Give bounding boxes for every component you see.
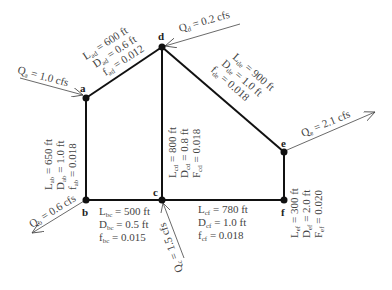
svg-text:Fef = 0.020: Fef = 0.020 [312,189,326,238]
pipe-label-de: Lde = 900 ft Dde = 1.0 ft fde = 0.018 [208,45,277,112]
svg-text:Lbc = 500 ft: Lbc = 500 ft [99,205,150,219]
svg-text:fbc = 0.015: fbc = 0.015 [99,231,146,245]
pipe-label-bc: Lbc = 500 ft Dbc = 0.5 ft fbc = 0.015 [99,205,150,245]
node-label-d: d [158,30,164,42]
svg-text:Dbc = 0.5 ft: Dbc = 0.5 ft [99,218,149,232]
pipe-label-ab: Lab = 650 ft Dab = 1.0 ft fab = 0.018 [42,139,80,190]
node-f [281,197,288,204]
svg-text:Fcd = 0.018: Fcd = 0.018 [190,128,204,178]
node-label-c: c [153,186,158,198]
pipe-label-cf: Lcf = 780 ft Dcf = 1.0 ft fcf = 0.018 [198,203,248,243]
node-e [281,149,288,156]
flow-label-b: Qb = 0.6 cfs [27,192,79,232]
flow-label-d: Qd = 0.2 cfs [177,8,231,36]
node-b [83,197,90,204]
node-a [83,95,90,102]
flow-label-c: Qc = 1.5 cfs [156,221,187,275]
pipe-label-ef: Lef = 300 ft Def = 2.0 ft Fef = 0.020 [288,188,326,238]
flow-label-e: Qe = 2.1 cfs [299,107,352,140]
node-label-f: f [281,206,285,218]
node-label-b: b [82,206,88,218]
svg-text:fcf = 0.018: fcf = 0.018 [198,229,244,243]
pipe-label-ad: Lad = 600 ft Dad = 0.6 ft fad = 0.012 [80,22,147,84]
arrow-head-c [161,203,170,213]
pipe-label-cd: Lcd = 800 ft Dcd = 0.8 ft Fcd = 0.018 [166,127,204,178]
flow-label-a: Qa = 1.0 cfs [16,63,70,90]
node-label-e: e [281,137,286,149]
pipe-network-diagram: a b c d e f Qa = 1.0 cfs Qd = 0.2 cfs Qe… [0,0,392,290]
node-d [159,44,166,51]
svg-text:Dcf = 1.0 ft: Dcf = 1.0 ft [198,216,246,230]
node-label-a: a [80,82,86,94]
svg-text:fab = 0.018: fab = 0.018 [66,143,80,190]
node-c [159,197,166,204]
svg-text:Lcf = 780 ft: Lcf = 780 ft [198,203,248,217]
